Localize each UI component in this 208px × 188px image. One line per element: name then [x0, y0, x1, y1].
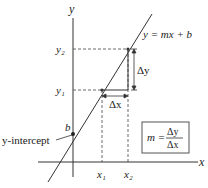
slope-numerator: Δy: [167, 126, 178, 137]
delta-y-label: Δy: [137, 64, 150, 76]
y2-label: y₂: [55, 43, 65, 55]
point-x1-y1: [100, 88, 103, 91]
y1-label: y₁: [55, 84, 65, 96]
slope-denominator: Δx: [167, 139, 178, 150]
y-intercept-pointer: [56, 135, 72, 140]
x1-label: x₁: [96, 168, 106, 180]
delta-x-label: Δx: [109, 98, 122, 110]
x2-label: x₂: [123, 168, 133, 180]
line-y-mx-b: [48, 14, 152, 182]
x-axis-label: x: [198, 155, 205, 169]
slope-lhs: m =: [147, 131, 165, 143]
y-axis-label: y: [68, 2, 75, 16]
y-intercept-label: y-intercept: [2, 134, 50, 146]
point-x2-y2: [126, 47, 129, 50]
line-equation: y = mx + b: [142, 28, 193, 40]
b-label: b: [65, 121, 71, 133]
slope-diagram: x y y = mx + b Δy Δx y₂ y₁ x₁ x₂ b y-int…: [0, 0, 208, 188]
